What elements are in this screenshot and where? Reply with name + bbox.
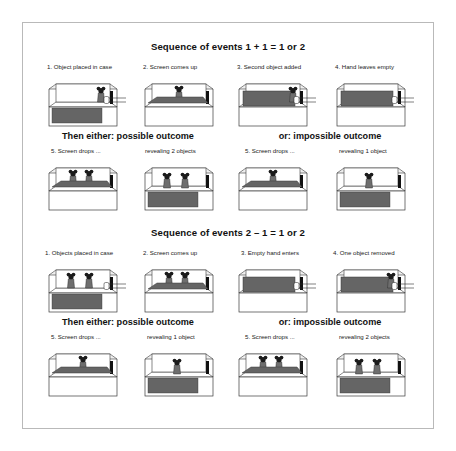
outcome-heading-sub-impossible: or: impossible outcome xyxy=(235,317,425,327)
panel-label-sub-step3: 3. Empty hand enters xyxy=(241,249,299,256)
outcome-heading-add-impossible: or: impossible outcome xyxy=(235,131,425,141)
panel-add-step2 xyxy=(143,75,227,129)
scene-two-objects-hand xyxy=(47,261,131,315)
scene-screen-dropping-one xyxy=(237,159,321,213)
panel-label-add-step4: 4. Hand leaves empty xyxy=(335,63,394,70)
section-title-subtraction: Sequence of events 2 – 1 = 1 or 2 xyxy=(23,227,433,238)
panel-label-add-step2: 2. Screen comes up xyxy=(143,63,197,70)
panel-add-step3 xyxy=(237,75,321,129)
panel-label-sub-step4: 4. One object removed xyxy=(333,249,395,256)
figure-frame: Sequence of events 1 + 1 = 1 or 2 1. Obj… xyxy=(22,22,434,429)
panel-label-sub-imp-reveal: revealing 2 objects xyxy=(339,333,390,340)
panel-sub-imp-reveal xyxy=(335,345,419,399)
outcome-heading-add-possible: Then either: possible outcome xyxy=(33,131,223,141)
panel-label-add-imp-step5: 5. Screen drops ... xyxy=(245,147,295,154)
scene-screen-rising-two xyxy=(143,261,227,315)
panel-label-sub-poss-reveal: revealing 1 object xyxy=(147,333,195,340)
panel-sub-step2 xyxy=(143,261,227,315)
section-title-addition: Sequence of events 1 + 1 = 1 or 2 xyxy=(23,41,433,52)
panel-sub-step1 xyxy=(47,261,131,315)
scene-one-object-hand xyxy=(47,75,131,129)
scene-one-object xyxy=(335,159,419,213)
scene-screen-up-hand-object xyxy=(335,261,419,315)
panel-label-sub-step1: 1. Objects placed in case xyxy=(45,249,113,256)
panel-label-add-poss-reveal: revealing 2 objects xyxy=(145,147,196,154)
panel-add-poss-step5 xyxy=(47,159,131,213)
scene-screen-up-hand-empty xyxy=(237,261,321,315)
scene-screen-rising-one xyxy=(143,75,227,129)
scene-one-object xyxy=(143,345,227,399)
scene-screen-up-hand-object xyxy=(237,75,321,129)
panel-sub-step3 xyxy=(237,261,321,315)
panel-sub-step4 xyxy=(335,261,419,315)
figure-inner: Sequence of events 1 + 1 = 1 or 2 1. Obj… xyxy=(23,23,433,428)
outcome-heading-sub-possible: Then either: possible outcome xyxy=(33,317,223,327)
panel-sub-poss-step5 xyxy=(47,345,131,399)
scene-screen-dropping-one xyxy=(47,345,131,399)
panel-add-step4 xyxy=(335,75,419,129)
scene-two-objects xyxy=(143,159,227,213)
panel-sub-imp-step5 xyxy=(237,345,321,399)
scene-screen-dropping-two xyxy=(237,345,321,399)
panel-label-add-poss-step5: 5. Screen drops ... xyxy=(51,147,101,154)
panel-label-add-step3: 3. Second object added xyxy=(237,63,301,70)
scene-screen-dropping-two xyxy=(47,159,131,213)
scene-screen-up-hand-empty xyxy=(335,75,419,129)
panel-label-add-step1: 1. Object placed in case xyxy=(47,63,112,70)
panel-add-step1 xyxy=(47,75,131,129)
scene-two-objects xyxy=(335,345,419,399)
panel-add-poss-reveal xyxy=(143,159,227,213)
panel-label-sub-step2: 2. Screen comes up xyxy=(143,249,197,256)
panel-label-sub-imp-step5: 5. Screen drops ... xyxy=(245,333,295,340)
panel-sub-poss-reveal xyxy=(143,345,227,399)
panel-add-imp-reveal xyxy=(335,159,419,213)
panel-add-imp-step5 xyxy=(237,159,321,213)
panel-label-sub-poss-step5: 5. Screen drops ... xyxy=(51,333,101,340)
panel-label-add-imp-reveal: revealing 1 object xyxy=(339,147,387,154)
